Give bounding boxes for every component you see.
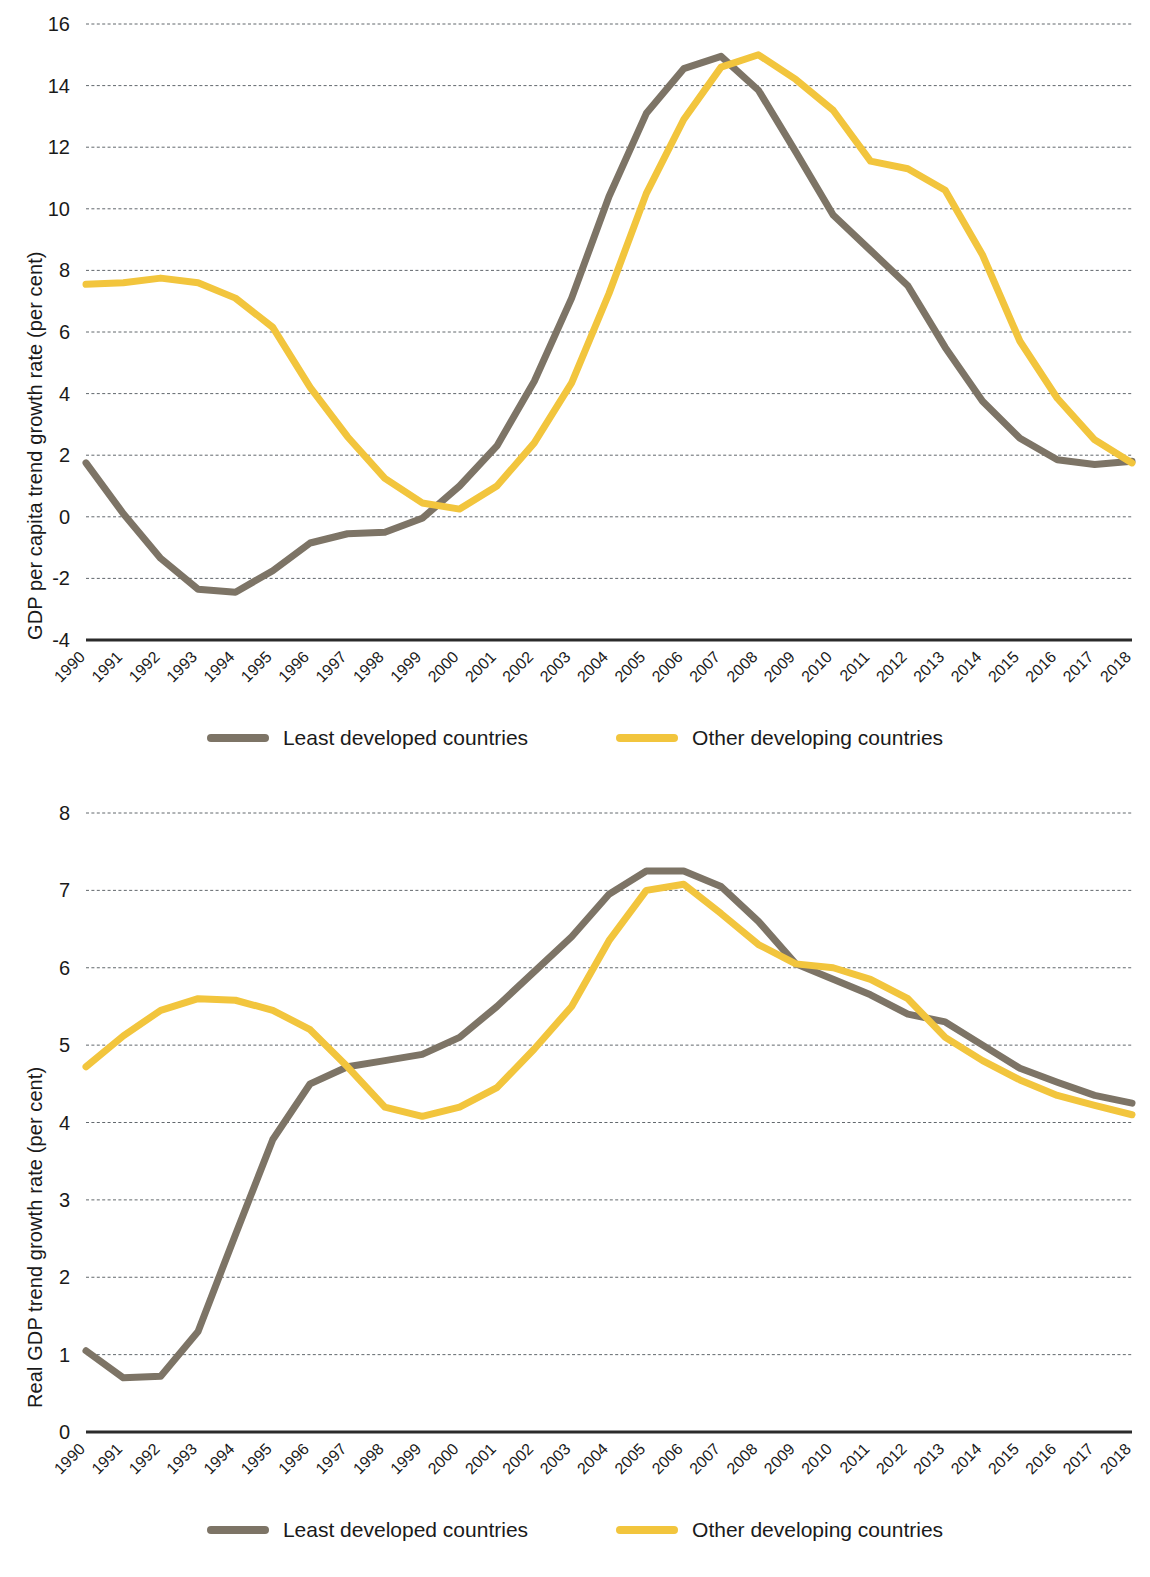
y-axis-title-bottom: Real GDP trend growth rate (per cent) [24,1067,47,1408]
y-axis-tick-label: 6 [59,957,70,979]
x-axis-tick-label: 1990 [51,648,88,685]
x-axis-tick-label: 2008 [723,1440,760,1477]
y-axis-tick-label: 7 [59,879,70,901]
x-axis-tick-label: 1992 [126,648,163,685]
y-axis-tick-label: 16 [48,13,70,35]
x-axis-tick-label: 2014 [948,648,985,685]
legend-top: Least developed countriesOther developin… [0,726,1150,750]
legend-swatch-icon [207,734,269,742]
x-axis-tick-label: 2018 [1097,648,1134,685]
x-axis-tick-label: 2017 [1060,648,1097,685]
x-axis-tick-label: 2012 [873,648,910,685]
legend-label: Least developed countries [283,1518,528,1542]
x-axis-tick-label: 2013 [910,1440,947,1477]
x-axis-tick-label: 2006 [649,1440,686,1477]
x-axis-tick-label: 2011 [836,1440,872,1476]
legend-item[interactable]: Other developing countries [616,726,943,750]
x-axis-tick-label: 1999 [387,1440,424,1477]
x-axis-tick-label: 2008 [723,648,760,685]
chart-gdp-per-capita: GDP per capita trend growth rate (per ce… [0,0,1150,778]
y-axis-tick-label: 10 [48,198,70,220]
x-axis-tick-label: 2010 [798,1440,835,1477]
x-axis-tick-label: 1997 [312,648,349,685]
y-axis-title-top: GDP per capita trend growth rate (per ce… [24,251,47,640]
x-axis-tick-label: 1996 [275,648,312,685]
x-axis-tick-label: 2015 [985,648,1022,685]
y-axis-tick-label: 3 [59,1189,70,1211]
x-axis-tick-label: 2004 [574,648,611,685]
x-axis-tick-label: 2017 [1060,1440,1097,1477]
x-axis-tick-label: 1991 [88,648,125,685]
x-axis-tick-label: 1991 [88,1440,125,1477]
x-axis-tick-label: 2007 [686,648,723,685]
series-line [86,55,1132,509]
x-axis-tick-label: 2014 [948,1440,985,1477]
plot-area-bottom: Real GDP trend growth rate (per cent) 01… [0,778,1150,1508]
y-axis-tick-label: 12 [48,136,70,158]
y-axis-tick-label: 4 [59,1112,70,1134]
x-axis-tick-label: 1998 [350,648,387,685]
x-axis-tick-label: 2000 [425,1440,462,1477]
legend-label: Other developing countries [692,1518,943,1542]
x-axis-tick-label: 2016 [1022,1440,1059,1477]
y-axis-tick-label: 6 [59,321,70,343]
y-axis-tick-label: 8 [59,802,70,824]
series-line [86,884,1132,1116]
y-axis-tick-label: 14 [48,75,70,97]
line-chart-svg-top: -4-2024681012141619901991199219931994199… [0,0,1150,720]
legend-item[interactable]: Least developed countries [207,726,528,750]
x-axis-tick-label: 2005 [611,648,648,685]
x-axis-tick-label: 1997 [312,1440,349,1477]
x-axis-tick-label: 2018 [1097,1440,1134,1477]
x-axis-tick-label: 2015 [985,1440,1022,1477]
legend-label: Other developing countries [692,726,943,750]
plot-area-top: GDP per capita trend growth rate (per ce… [0,0,1150,720]
x-axis-tick-label: 2000 [425,648,462,685]
legend-item[interactable]: Least developed countries [207,1518,528,1542]
x-axis-tick-label: 1999 [387,648,424,685]
x-axis-tick-label: 2002 [499,1440,536,1477]
x-axis-tick-label: 1998 [350,1440,387,1477]
legend-bottom: Least developed countriesOther developin… [0,1518,1150,1542]
y-axis-tick-label: 2 [59,444,70,466]
x-axis-tick-label: 1995 [238,1440,275,1477]
y-axis-tick-label: 0 [59,1421,70,1443]
x-axis-tick-label: 2016 [1022,648,1059,685]
y-axis-tick-label: -2 [52,567,70,589]
y-axis-tick-label: 8 [59,259,70,281]
x-axis-tick-label: 1993 [163,1440,200,1477]
legend-label: Least developed countries [283,726,528,750]
y-axis-tick-label: 5 [59,1034,70,1056]
line-chart-svg-bottom: 0123456781990199119921993199419951996199… [0,778,1150,1508]
x-axis-tick-label: 2009 [761,1440,798,1477]
x-axis-tick-label: 2003 [537,648,574,685]
y-axis-tick-label: 1 [59,1344,70,1366]
x-axis-tick-label: 2011 [836,648,872,684]
x-axis-tick-label: 2012 [873,1440,910,1477]
y-axis-tick-label: 2 [59,1266,70,1288]
x-axis-tick-label: 2005 [611,1440,648,1477]
x-axis-tick-label: 1990 [51,1440,88,1477]
x-axis-tick-label: 1994 [200,1440,237,1477]
x-axis-tick-label: 2010 [798,648,835,685]
y-axis-tick-label: 0 [59,506,70,528]
legend-swatch-icon [616,1526,678,1534]
x-axis-tick-label: 1996 [275,1440,312,1477]
x-axis-tick-label: 2001 [462,1440,499,1477]
x-axis-tick-label: 2009 [761,648,798,685]
x-axis-tick-label: 2013 [910,648,947,685]
legend-swatch-icon [616,734,678,742]
x-axis-tick-label: 1993 [163,648,200,685]
chart-real-gdp: Real GDP trend growth rate (per cent) 01… [0,778,1150,1577]
x-axis-tick-label: 2006 [649,648,686,685]
x-axis-tick-label: 2002 [499,648,536,685]
x-axis-tick-label: 2007 [686,1440,723,1477]
x-axis-tick-label: 1994 [200,648,237,685]
x-axis-tick-label: 1992 [126,1440,163,1477]
x-axis-tick-label: 2003 [537,1440,574,1477]
y-axis-tick-label: 4 [59,383,70,405]
legend-item[interactable]: Other developing countries [616,1518,943,1542]
x-axis-tick-label: 2004 [574,1440,611,1477]
legend-swatch-icon [207,1526,269,1534]
y-axis-tick-label: -4 [52,629,70,651]
